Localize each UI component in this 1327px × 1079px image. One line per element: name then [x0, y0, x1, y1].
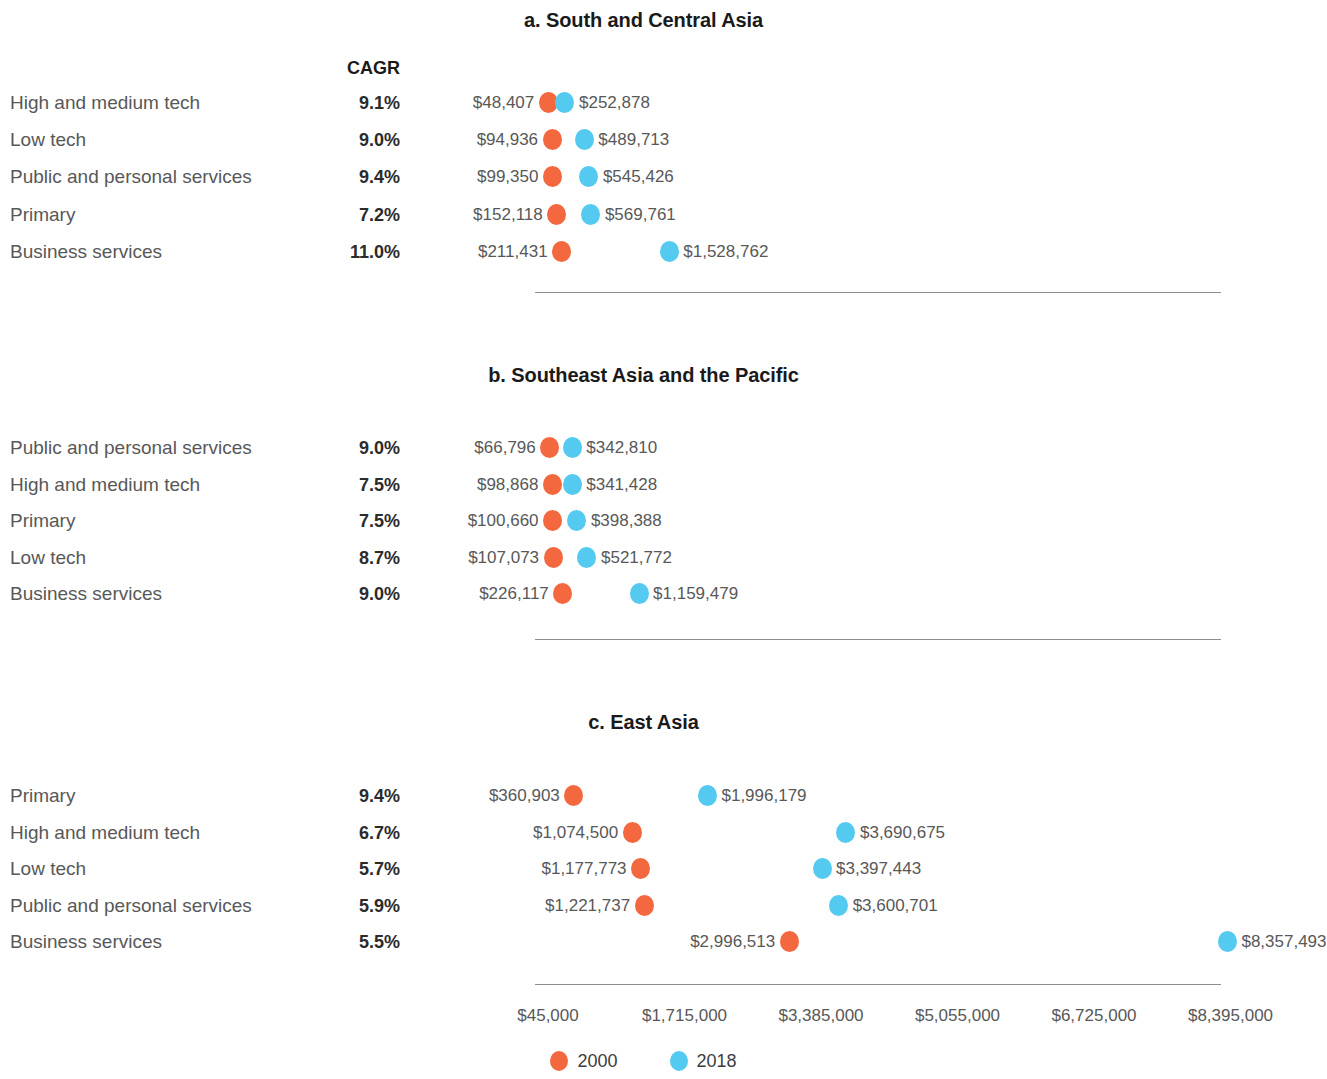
panel-title-b: b. Southeast Asia and the Pacific: [0, 364, 1287, 387]
value-label-2018: $545,426: [603, 164, 674, 190]
value-label-2018: $489,713: [598, 127, 669, 153]
data-point-2000: [543, 474, 562, 495]
x-axis-tick: $6,725,000: [1051, 1003, 1136, 1029]
value-label-2000: $226,117: [479, 581, 549, 607]
chart-row: High and medium tech6.7%$1,074,500$3,690…: [0, 820, 1287, 856]
legend-swatch-icon: [670, 1051, 688, 1071]
x-axis-tick: $45,000: [517, 1003, 578, 1029]
axis-rule-b: [535, 639, 1221, 640]
data-point-2000: [544, 547, 563, 568]
data-point-2000: [543, 129, 562, 150]
legend-label: 2018: [697, 1051, 737, 1071]
row-plot-area: $360,903$1,996,179: [0, 783, 1287, 819]
row-plot-area: $226,117$1,159,479: [0, 581, 1287, 617]
legend-item-2000[interactable]: 2000: [550, 1051, 617, 1072]
value-label-2018: $3,397,443: [836, 856, 921, 882]
panel-title-a: a. South and Central Asia: [0, 9, 1287, 32]
value-label-2000: $66,796: [474, 435, 535, 461]
row-plot-area: $1,177,773$3,397,443: [0, 856, 1287, 892]
row-plot-area: $211,431$1,528,762: [0, 239, 1287, 275]
data-point-2000: [631, 858, 650, 879]
value-label-2000: $211,431: [478, 239, 548, 265]
chart-row: Public and personal services9.4%$99,350$…: [0, 164, 1287, 200]
data-point-2018: [660, 241, 679, 262]
row-plot-area: $48,407$252,878: [0, 90, 1287, 126]
chart-row: Public and personal services9.0%$66,796$…: [0, 435, 1287, 471]
value-label-2000: $94,936: [477, 127, 538, 153]
chart-row: Public and personal services5.9%$1,221,7…: [0, 893, 1287, 929]
data-point-2018: [577, 547, 596, 568]
data-point-2018: [563, 437, 582, 458]
axis-rule-c: [535, 984, 1221, 985]
data-point-2000: [623, 822, 642, 843]
value-label-2018: $1,159,479: [653, 581, 738, 607]
value-label-2018: $1,528,762: [683, 239, 768, 265]
value-label-2018: $521,772: [601, 545, 672, 571]
chart-row: High and medium tech9.1%$48,407$252,878: [0, 90, 1287, 126]
chart-row: Business services9.0%$226,117$1,159,479: [0, 581, 1287, 617]
value-label-2000: $1,074,500: [533, 820, 618, 846]
value-label-2000: $360,903: [489, 783, 560, 809]
x-axis-tick-labels: $45,000$1,715,000$3,385,000$5,055,000$6,…: [0, 1003, 1287, 1029]
cagr-column-header: CAGR: [280, 58, 400, 79]
value-label-2000: $107,073: [468, 545, 539, 571]
data-point-2000: [635, 895, 654, 916]
legend-item-2018[interactable]: 2018: [670, 1051, 737, 1072]
data-point-2018: [567, 510, 586, 531]
row-plot-area: $1,074,500$3,690,675: [0, 820, 1287, 856]
x-axis-tick: $3,385,000: [778, 1003, 863, 1029]
chart-row: Low tech9.0%$94,936$489,713: [0, 127, 1287, 163]
value-label-2018: $341,428: [586, 472, 657, 498]
value-label-2018: $342,810: [586, 435, 657, 461]
x-axis-tick: $5,055,000: [915, 1003, 1000, 1029]
data-point-2000: [564, 785, 583, 806]
value-label-2000: $152,118: [473, 202, 543, 228]
chart-row: Low tech8.7%$107,073$521,772: [0, 545, 1287, 581]
data-point-2000: [780, 931, 799, 952]
value-label-2000: $2,996,513: [690, 929, 775, 955]
data-point-2000: [543, 166, 562, 187]
value-label-2000: $99,350: [477, 164, 538, 190]
row-plot-area: $2,996,513$8,357,493: [0, 929, 1287, 965]
data-point-2018: [698, 785, 717, 806]
value-label-2018: $1,996,179: [721, 783, 806, 809]
value-label-2018: $3,600,701: [853, 893, 938, 919]
value-label-2000: $48,407: [473, 90, 534, 116]
chart-row: Primary9.4%$360,903$1,996,179: [0, 783, 1287, 819]
axis-rule-a: [535, 292, 1221, 293]
data-point-2018: [555, 92, 574, 113]
chart-row: Primary7.5%$100,660$398,388: [0, 508, 1287, 544]
data-point-2000: [547, 204, 566, 225]
x-axis-tick: $1,715,000: [642, 1003, 727, 1029]
value-label-2018: $8,357,493: [1241, 929, 1326, 955]
chart-row: Low tech5.7%$1,177,773$3,397,443: [0, 856, 1287, 892]
data-point-2018: [575, 129, 594, 150]
row-plot-area: $1,221,737$3,600,701: [0, 893, 1287, 929]
data-point-2018: [1218, 931, 1237, 952]
chart-legend: 20002018: [0, 1051, 1287, 1072]
data-point-2018: [579, 166, 598, 187]
x-axis-tick: $8,395,000: [1188, 1003, 1273, 1029]
value-label-2000: $1,221,737: [545, 893, 630, 919]
value-label-2018: $569,761: [605, 202, 676, 228]
data-point-2018: [836, 822, 855, 843]
data-point-2000: [553, 583, 572, 604]
legend-swatch-icon: [550, 1051, 568, 1071]
value-label-2000: $98,868: [477, 472, 538, 498]
row-plot-area: $98,868$341,428: [0, 472, 1287, 508]
row-plot-area: $107,073$521,772: [0, 545, 1287, 581]
data-point-2018: [581, 204, 600, 225]
chart-row: High and medium tech7.5%$98,868$341,428: [0, 472, 1287, 508]
data-point-2018: [829, 895, 848, 916]
legend-label: 2000: [577, 1051, 617, 1071]
value-label-2018: $398,388: [591, 508, 662, 534]
row-plot-area: $100,660$398,388: [0, 508, 1287, 544]
row-plot-area: $94,936$489,713: [0, 127, 1287, 163]
data-point-2018: [813, 858, 832, 879]
chart-row: Business services5.5%$2,996,513$8,357,49…: [0, 929, 1287, 965]
panel-title-c: c. East Asia: [0, 711, 1287, 734]
data-point-2000: [552, 241, 571, 262]
chart-row: Primary7.2%$152,118$569,761: [0, 202, 1287, 238]
data-point-2000: [543, 510, 562, 531]
row-plot-area: $99,350$545,426: [0, 164, 1287, 200]
